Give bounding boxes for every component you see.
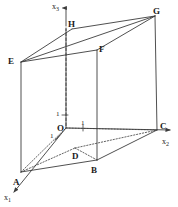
vertex-label-A: A <box>13 178 20 187</box>
tick-label-x2: 1 <box>81 120 85 127</box>
vertex-label-C: C <box>160 122 167 131</box>
vertex-label-B: B <box>91 166 97 175</box>
edge-E-F <box>21 50 97 62</box>
axis-label-x2: x2 <box>162 138 169 146</box>
figure-canvas: A B C D E F G H O 1 1 1 x3 x2 x1 <box>0 0 178 207</box>
vertex-label-F: F <box>99 45 105 54</box>
axis-label-x1-sub: 1 <box>8 197 11 203</box>
vertex-label-D: D <box>72 152 79 161</box>
origin-label-O: O <box>57 124 64 133</box>
edge-D-C-dotted <box>75 130 157 148</box>
edge-G-C <box>155 16 157 130</box>
axis-label-x2-sub: 2 <box>166 141 169 147</box>
edge-A-D-dotted <box>21 148 75 172</box>
edge-A-O-dotted <box>21 128 66 172</box>
figure-line-art <box>0 0 178 207</box>
tick-label-x1: 1 <box>50 133 54 140</box>
axis-x1 <box>14 128 66 192</box>
edge-E-G <box>21 16 155 62</box>
edge-A-B <box>21 160 97 172</box>
edge-H-G <box>72 16 155 29</box>
tick-label-x3: 1 <box>56 111 60 118</box>
edge-B-C <box>97 130 157 160</box>
axis-label-x3-sub: 3 <box>56 6 59 12</box>
vertex-label-E: E <box>8 57 14 66</box>
vertex-label-G: G <box>153 7 160 16</box>
axis-label-x3: x3 <box>52 3 59 11</box>
axis-label-x1: x1 <box>4 194 11 202</box>
edge-E-H <box>21 29 72 62</box>
vertex-label-H: H <box>68 20 75 29</box>
